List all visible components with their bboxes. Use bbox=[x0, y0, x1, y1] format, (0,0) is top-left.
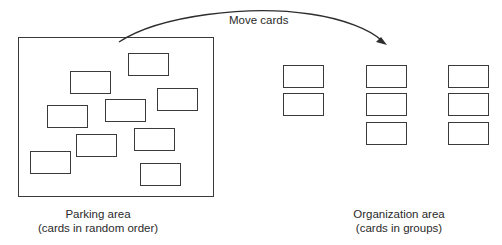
organization-area-title: Organization area bbox=[289, 207, 502, 221]
organized-card bbox=[366, 65, 407, 88]
organization-area-caption: Organization area (cards in groups) bbox=[289, 207, 502, 235]
card-sorting-diagram: Move cards Parking area (cards in random… bbox=[0, 0, 502, 245]
organized-card bbox=[283, 93, 324, 116]
parking-area-title: Parking area bbox=[0, 207, 208, 221]
organized-card bbox=[448, 93, 489, 116]
organized-card bbox=[283, 65, 324, 88]
organized-card bbox=[448, 122, 489, 145]
parking-card bbox=[30, 151, 71, 174]
organized-card bbox=[366, 122, 407, 145]
parking-card bbox=[47, 105, 88, 128]
parking-area-caption: Parking area (cards in random order) bbox=[0, 207, 208, 235]
organized-card bbox=[448, 65, 489, 88]
parking-card bbox=[105, 99, 146, 122]
parking-card bbox=[134, 128, 175, 151]
parking-card bbox=[128, 53, 169, 76]
parking-card bbox=[140, 163, 181, 186]
organized-card bbox=[366, 93, 407, 116]
parking-card bbox=[76, 134, 117, 157]
organization-area-subtitle: (cards in groups) bbox=[289, 221, 502, 235]
move-cards-label: Move cards bbox=[229, 13, 288, 27]
parking-card bbox=[70, 71, 111, 94]
parking-card bbox=[157, 88, 198, 111]
parking-area-subtitle: (cards in random order) bbox=[0, 221, 208, 235]
